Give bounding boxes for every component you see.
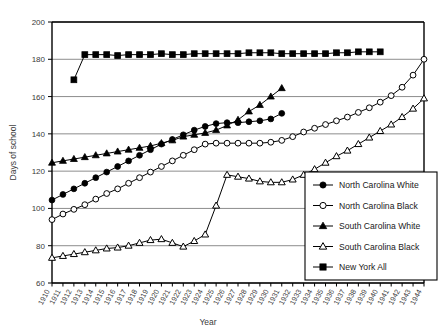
marker-open-circle <box>93 196 99 202</box>
marker-filled-square <box>148 52 154 58</box>
marker-open-circle <box>235 140 241 146</box>
marker-open-circle <box>399 84 405 90</box>
marker-filled-square <box>246 50 252 56</box>
marker-filled-square <box>159 51 165 57</box>
legend-label[interactable]: North Carolina White <box>339 180 419 190</box>
marker-filled-square <box>180 52 186 58</box>
legend-label[interactable]: North Carolina Black <box>339 201 419 211</box>
marker-filled-square <box>334 50 340 56</box>
marker-filled-square <box>279 51 285 57</box>
ytick-label: 160 <box>32 93 46 102</box>
legend-label[interactable]: New York All <box>339 262 387 272</box>
marker-filled-square <box>320 264 326 270</box>
legend: North Carolina WhiteNorth Carolina Black… <box>305 172 437 280</box>
marker-filled-circle <box>49 197 55 203</box>
marker-open-circle <box>137 175 143 181</box>
marker-open-circle <box>388 93 394 99</box>
marker-filled-square <box>126 52 132 58</box>
marker-filled-square <box>235 51 241 57</box>
marker-open-circle <box>115 186 121 192</box>
marker-open-circle <box>169 158 175 164</box>
marker-filled-square <box>290 51 296 57</box>
marker-filled-square <box>345 50 351 56</box>
marker-filled-circle <box>82 180 88 186</box>
ytick-label: 200 <box>32 18 46 27</box>
marker-filled-square <box>104 52 110 58</box>
marker-filled-square <box>71 77 77 83</box>
ytick-label: 60 <box>36 279 45 288</box>
marker-open-circle <box>279 137 285 143</box>
marker-open-circle <box>345 114 351 120</box>
marker-open-circle <box>82 202 88 208</box>
line-chart: 6080100120140160180200191019111912191319… <box>0 0 447 330</box>
y-axis-title: Days of school <box>8 125 18 181</box>
ytick-label: 180 <box>32 55 46 64</box>
marker-filled-square <box>191 51 197 57</box>
marker-filled-circle <box>246 119 252 125</box>
marker-open-circle <box>104 191 110 197</box>
marker-filled-circle <box>71 186 77 192</box>
marker-open-circle <box>202 141 208 147</box>
marker-filled-circle <box>126 158 132 164</box>
marker-filled-square <box>377 49 383 55</box>
marker-filled-circle <box>257 118 263 124</box>
marker-open-circle <box>301 129 307 135</box>
marker-open-circle <box>180 152 186 158</box>
marker-open-circle <box>224 140 230 146</box>
ytick-label: 80 <box>36 242 45 251</box>
marker-open-circle <box>148 169 154 175</box>
marker-open-circle <box>213 140 219 146</box>
marker-filled-square <box>93 52 99 58</box>
marker-open-circle <box>290 134 296 140</box>
marker-open-circle <box>355 110 361 116</box>
ytick-label: 120 <box>32 167 46 176</box>
marker-filled-square <box>137 52 143 58</box>
marker-filled-square <box>301 51 307 57</box>
marker-filled-square <box>366 49 372 55</box>
xtick-label: 1944 <box>408 288 424 307</box>
marker-filled-square <box>355 49 361 55</box>
marker-filled-circle <box>213 121 219 127</box>
marker-open-circle <box>320 202 326 208</box>
chart-figure: 6080100120140160180200191019111912191319… <box>0 0 447 330</box>
marker-filled-square <box>312 51 318 57</box>
marker-filled-square <box>224 51 230 57</box>
marker-open-circle <box>421 56 427 62</box>
marker-filled-square <box>268 50 274 56</box>
marker-open-circle <box>410 72 416 78</box>
marker-open-circle <box>246 140 252 146</box>
marker-filled-circle <box>320 182 326 188</box>
marker-open-circle <box>191 147 197 153</box>
marker-filled-square <box>82 52 88 58</box>
marker-open-circle <box>268 139 274 145</box>
marker-filled-circle <box>202 124 208 130</box>
marker-filled-circle <box>93 175 99 181</box>
marker-open-circle <box>366 105 372 111</box>
marker-open-circle <box>60 211 66 217</box>
ytick-label: 100 <box>32 204 46 213</box>
legend-label[interactable]: South Carolina Black <box>339 242 420 252</box>
marker-open-circle <box>312 125 318 131</box>
marker-filled-square <box>213 51 219 57</box>
marker-open-circle <box>334 118 340 124</box>
marker-open-circle <box>377 99 383 105</box>
marker-open-circle <box>71 206 77 212</box>
marker-open-circle <box>49 217 55 223</box>
marker-filled-circle <box>268 116 274 122</box>
marker-open-circle <box>126 180 132 186</box>
marker-open-circle <box>323 122 329 128</box>
marker-filled-circle <box>115 164 121 170</box>
ytick-label: 140 <box>32 130 46 139</box>
marker-filled-square <box>202 51 208 57</box>
marker-filled-circle <box>104 169 110 175</box>
marker-open-circle <box>257 140 263 146</box>
marker-filled-circle <box>137 152 143 158</box>
marker-filled-square <box>115 53 121 59</box>
marker-open-circle <box>159 164 165 170</box>
x-axis-title: Year <box>199 317 216 327</box>
marker-filled-circle <box>279 110 285 116</box>
marker-filled-square <box>257 50 263 56</box>
legend-label[interactable]: South Carolina White <box>339 221 420 231</box>
marker-filled-square <box>323 51 329 57</box>
marker-filled-square <box>169 52 175 58</box>
